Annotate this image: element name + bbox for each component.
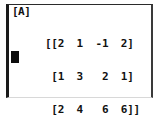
calculator-screen: [A] [[2 1 -1 2] [1 3 2 1] [2 4 6 6]] [6,4,153,98]
screen-content-area: [A] [[2 1 -1 2] [1 3 2 1] [2 4 6 6]] [9,5,151,97]
matrix-row: [[2 1 -1 2] [45,38,140,49]
text-cursor [11,51,19,63]
matrix-name-label: [A] [12,6,30,17]
matrix-row: [1 3 2 1] [45,71,140,82]
matrix-display: [[2 1 -1 2] [1 3 2 1] [2 4 6 6]] [45,16,140,103]
